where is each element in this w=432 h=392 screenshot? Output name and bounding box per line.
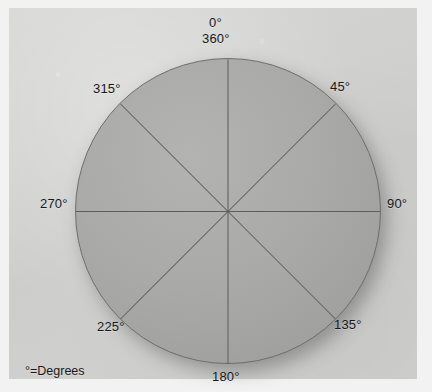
degree-label-225: 225° — [97, 320, 125, 335]
degree-label-45: 45° — [330, 80, 350, 95]
degree-label-0: 0° — [209, 16, 222, 31]
figure-plate: 0° 360° 45° 90° 135° 180° 225° 270° 315°… — [9, 8, 417, 379]
degree-label-270: 270° — [40, 197, 68, 212]
degree-label-90: 90° — [387, 197, 407, 212]
degree-label-135: 135° — [334, 318, 362, 333]
degrees-legend: °=Degrees — [25, 364, 85, 378]
degree-label-360: 360° — [202, 32, 230, 47]
degree-label-315: 315° — [93, 82, 121, 97]
degree-label-180: 180° — [212, 370, 240, 385]
figure-page: 0° 360° 45° 90° 135° 180° 225° 270° 315°… — [0, 0, 432, 392]
